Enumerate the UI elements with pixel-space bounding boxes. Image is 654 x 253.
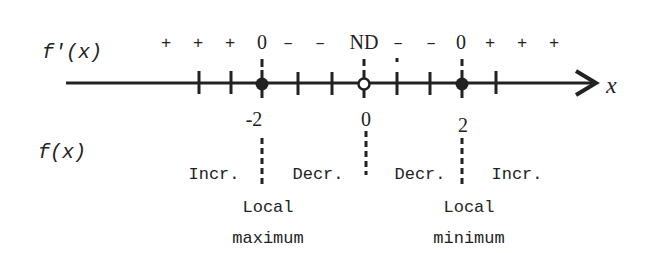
- sign-plus: +: [193, 34, 203, 53]
- sign-minus: –: [283, 34, 293, 53]
- sign-zero: 0: [456, 31, 466, 53]
- interval-behavior: Decr.: [394, 165, 445, 184]
- number-line: [66, 70, 596, 98]
- sign-chart-svg: f'(x) f(x) + + + 0 – – ND – – 0 + + +: [0, 0, 654, 253]
- interval-behavior: Incr.: [188, 165, 239, 184]
- critical-x-label: 2: [458, 114, 468, 136]
- open-point-icon: [359, 79, 370, 90]
- sign-plus: +: [517, 34, 527, 53]
- sign-plus: +: [225, 34, 235, 53]
- sign-minus: –: [426, 34, 436, 53]
- sign-plus: +: [161, 34, 171, 53]
- filled-point-icon: [256, 78, 269, 91]
- extremum-labels: Local maximum Local minimum: [232, 198, 504, 248]
- axis-variable-label: x: [605, 72, 617, 98]
- local-min-line1: Local: [443, 198, 494, 217]
- sign-minus: –: [393, 34, 403, 53]
- sign-plus: +: [549, 34, 559, 53]
- filled-point-icon: [456, 78, 469, 91]
- sign-zero: 0: [257, 31, 267, 53]
- local-max-line1: Local: [242, 198, 293, 217]
- interval-behavior: Decr.: [292, 165, 343, 184]
- function-row-label: f(x): [38, 141, 86, 164]
- sign-not-defined: ND: [350, 31, 379, 53]
- interval-behavior: Incr.: [491, 165, 542, 184]
- derivative-row-label: f'(x): [42, 41, 102, 64]
- upper-dash-marks: [262, 58, 462, 67]
- sign-plus: +: [485, 34, 495, 53]
- sign-minus: –: [315, 34, 325, 53]
- local-min-line2: minimum: [433, 229, 504, 248]
- sign-chart-diagram: f'(x) f(x) + + + 0 – – ND – – 0 + + +: [0, 0, 654, 253]
- critical-x-label: 0: [361, 108, 371, 130]
- critical-x-label: -2: [246, 108, 263, 130]
- local-max-line2: maximum: [232, 229, 303, 248]
- derivative-sign-row: + + + 0 – – ND – – 0 + + +: [161, 31, 559, 53]
